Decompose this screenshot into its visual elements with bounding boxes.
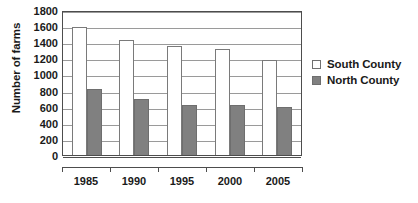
x-axis-line bbox=[62, 167, 302, 168]
bar-south-county-2005 bbox=[262, 60, 277, 155]
hollow-square-swatch-icon bbox=[312, 60, 321, 69]
bar-south-county-2000 bbox=[215, 49, 230, 155]
bar-chart-figure: Number of farms 180016001400120010008006… bbox=[0, 0, 418, 203]
bar-group bbox=[262, 12, 292, 155]
y-tick-label: 1000 bbox=[22, 70, 58, 81]
x-tick-mark bbox=[254, 167, 255, 172]
bar-south-county-1990 bbox=[119, 40, 134, 155]
bar-group bbox=[215, 12, 245, 155]
legend-item-north-county[interactable]: North County bbox=[312, 74, 401, 86]
bars-layer bbox=[63, 12, 301, 155]
y-axis-title: Number of farms bbox=[10, 8, 22, 128]
bar-south-county-1985 bbox=[72, 27, 87, 155]
filled-square-swatch-icon bbox=[312, 76, 321, 85]
plot-area bbox=[62, 11, 302, 156]
legend-label: North County bbox=[327, 74, 399, 86]
bar-north-county-1985 bbox=[87, 89, 102, 155]
bar-group bbox=[167, 12, 197, 155]
y-tick-label: 600 bbox=[22, 102, 58, 113]
x-tick-mark bbox=[158, 167, 159, 172]
x-tick-mark bbox=[206, 167, 207, 172]
y-tick-label: 400 bbox=[22, 118, 58, 129]
x-tick-label: 2000 bbox=[218, 174, 242, 194]
x-tick-mark bbox=[110, 167, 111, 172]
y-tick-label: 0 bbox=[22, 151, 58, 162]
x-tick-label: 1995 bbox=[170, 174, 194, 194]
x-tick-label: 2005 bbox=[266, 174, 290, 194]
bar-group bbox=[119, 12, 149, 155]
gridline bbox=[63, 157, 301, 158]
legend-label: South County bbox=[327, 58, 401, 70]
x-tick-mark bbox=[302, 167, 303, 172]
bar-north-county-2000 bbox=[230, 105, 245, 155]
y-tick-label: 200 bbox=[22, 134, 58, 145]
y-axis-tick-labels: 180016001400120010008006004002000 bbox=[22, 11, 58, 156]
bar-group bbox=[72, 12, 102, 155]
y-tick-label: 1600 bbox=[22, 22, 58, 33]
y-tick-label: 1400 bbox=[22, 38, 58, 49]
chart-legend: South CountyNorth County bbox=[312, 58, 401, 86]
y-tick-label: 1800 bbox=[22, 6, 58, 17]
x-tick-label: 1990 bbox=[122, 174, 146, 194]
x-axis-tick-labels: 19851990199520002005 bbox=[62, 174, 302, 194]
x-tick-label: 1985 bbox=[74, 174, 98, 194]
bar-north-county-1990 bbox=[134, 99, 149, 155]
y-tick-label: 1200 bbox=[22, 54, 58, 65]
x-tick-mark bbox=[62, 167, 63, 172]
bar-north-county-2005 bbox=[277, 107, 292, 155]
y-tick-label: 800 bbox=[22, 86, 58, 97]
legend-item-south-county[interactable]: South County bbox=[312, 58, 401, 70]
bar-north-county-1995 bbox=[182, 105, 197, 155]
bar-south-county-1995 bbox=[167, 46, 182, 155]
